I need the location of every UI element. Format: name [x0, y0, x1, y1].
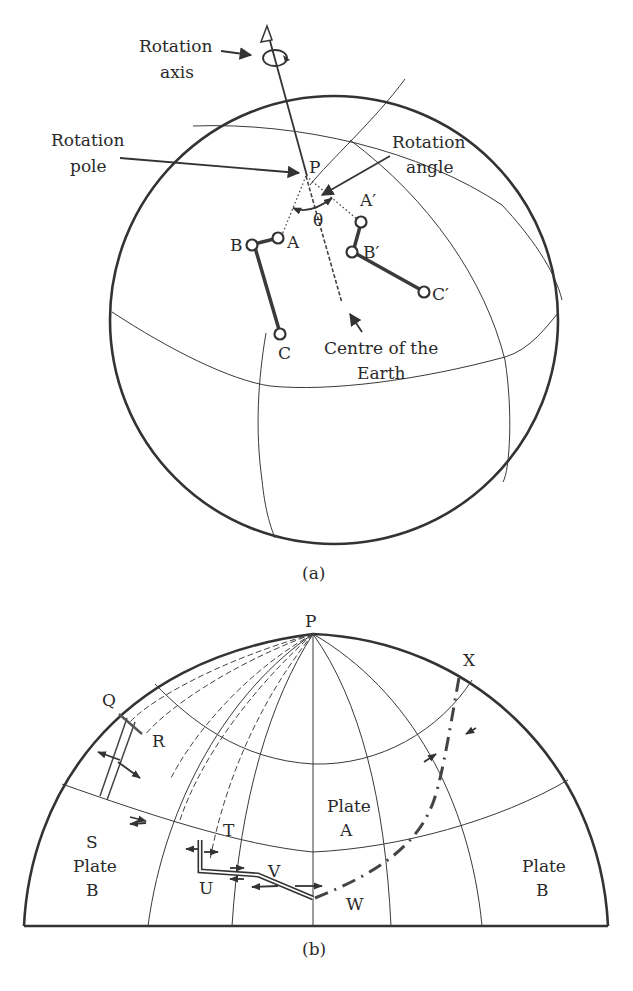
label-plate-left-2: B [86, 880, 99, 900]
label-rotation-axis-1: Rotation [139, 36, 213, 56]
ridge-t-u [200, 840, 313, 898]
label-q: Q [102, 690, 116, 710]
meridian-line-left [258, 333, 275, 538]
label-x: X [463, 650, 476, 670]
label-centre-earth-2: Earth [357, 363, 406, 383]
point-b-prime-node [347, 247, 358, 258]
label-a-prime: A′ [359, 190, 376, 210]
label-b-prime: B′ [363, 242, 379, 262]
label-rotation-angle-1: Rotation [392, 132, 466, 152]
point-a-node [273, 233, 284, 244]
label-plate-left-1: Plate [73, 856, 117, 876]
rotation-angle-pointer-arrow [322, 156, 390, 195]
latitude-lower [62, 780, 568, 852]
label-r: R [152, 731, 166, 751]
dashed-meridian-1 [130, 634, 313, 722]
label-rotation-pole-1: Rotation [51, 130, 125, 150]
label-rotation-axis-2: axis [160, 62, 194, 82]
ray-p-to-centre [306, 176, 342, 303]
label-c: C [278, 343, 291, 363]
rotation-pole-pointer-arrow [120, 158, 299, 173]
label-u: U [199, 878, 213, 898]
caption-b: (b) [302, 939, 326, 959]
label-pole-p-b: P [305, 611, 316, 631]
label-c-prime: C′ [432, 284, 449, 304]
panel-b-hemisphere-diagram: P Q R S T U V W X Plate B Plate A Plate … [24, 611, 608, 959]
point-c-prime-node [419, 287, 430, 298]
label-rotation-angle-2: angle [406, 157, 453, 177]
label-centre-earth-1: Centre of the [324, 338, 438, 358]
plate-boundary-w-x [315, 672, 460, 898]
vw-arrow-left [252, 886, 278, 887]
rotation-axis-line [267, 30, 307, 176]
label-pole-p: P [309, 157, 320, 177]
ray-p-to-a [282, 176, 306, 235]
meridian-line-right [310, 79, 405, 185]
point-a-prime-node [356, 217, 367, 228]
centre-earth-pointer-arrow [350, 314, 362, 332]
rotation-axis-arrowhead-icon [261, 26, 272, 42]
label-s: S [86, 832, 98, 852]
ridge-arrow-right [118, 762, 140, 778]
label-plate-center-2: A [339, 820, 353, 840]
caption-a: (a) [302, 563, 325, 583]
figure-canvas: Rotation axis Rotation pole Rotation ang… [0, 0, 633, 991]
ridge-arrow-left [98, 752, 120, 760]
hemisphere-outline [24, 634, 608, 926]
label-plate-right-2: B [536, 880, 549, 900]
label-plate-center-1: Plate [327, 796, 371, 816]
label-w: W [346, 894, 364, 914]
dashed-meridian-3 [170, 634, 313, 780]
label-rotation-pole-2: pole [70, 156, 107, 176]
panel-a-globe-diagram: Rotation axis Rotation pole Rotation ang… [51, 26, 562, 583]
label-theta: θ [313, 210, 323, 230]
label-v: V [267, 861, 281, 881]
small-arrow-s2 [130, 823, 146, 824]
label-b: B [230, 235, 243, 255]
dashed-meridian-4 [180, 634, 313, 820]
label-a: A [286, 232, 300, 252]
point-b-node [247, 240, 258, 251]
point-c-node [275, 329, 286, 340]
label-plate-right-1: Plate [522, 856, 566, 876]
latitude-line-upper [193, 126, 562, 300]
boundary-arrow-1 [466, 728, 476, 734]
segment-bc [254, 244, 280, 333]
small-arrow-s1 [130, 817, 146, 821]
label-t: T [223, 820, 235, 840]
rotation-axis-pointer-arrow [221, 51, 251, 55]
